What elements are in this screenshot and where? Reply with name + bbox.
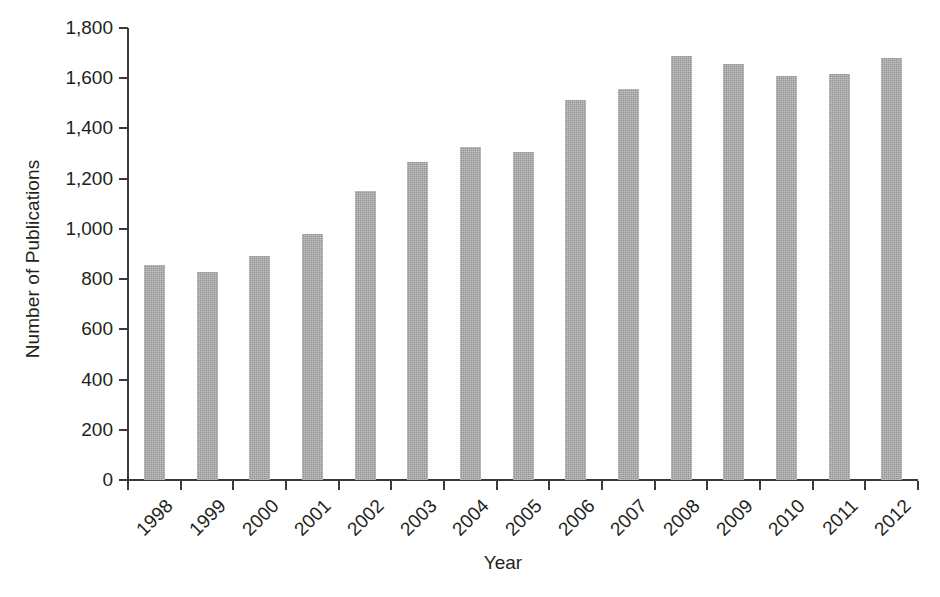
x-axis-tick <box>338 481 340 490</box>
x-axis-tick-label: 1998 <box>120 495 178 553</box>
x-axis-title: Year <box>0 552 940 574</box>
x-axis-tick <box>759 481 761 490</box>
x-axis-tick <box>180 481 182 490</box>
y-axis-tick-label: 1,600 <box>5 68 113 87</box>
bar <box>513 152 534 480</box>
x-axis-tick-label: 2003 <box>383 495 441 553</box>
bar <box>671 56 692 480</box>
bar <box>249 256 270 480</box>
bar <box>407 162 428 480</box>
x-axis-tick-label: 2006 <box>541 495 599 553</box>
x-axis-tick-label: 1999 <box>173 495 231 553</box>
x-axis-tick-label: 2007 <box>594 495 652 553</box>
x-axis-tick <box>812 481 814 490</box>
y-axis-tick-label: 200 <box>5 420 113 439</box>
bar <box>197 272 218 480</box>
y-axis-tick-label: 400 <box>5 370 113 389</box>
x-axis-tick-label: 2004 <box>436 495 494 553</box>
x-axis-tick <box>548 481 550 490</box>
x-axis-tick-label: 2010 <box>752 495 810 553</box>
y-axis-tick-label: 1,400 <box>5 118 113 137</box>
x-axis-tick-label: 2002 <box>331 495 389 553</box>
x-axis-tick <box>864 481 866 490</box>
bar <box>723 64 744 480</box>
x-axis-title-text: Year <box>484 552 522 574</box>
bar <box>302 234 323 480</box>
y-axis-tick-label: 1,000 <box>5 219 113 238</box>
bar <box>881 58 902 480</box>
y-axis-tick-label: 1,200 <box>5 169 113 188</box>
x-axis-tick-label: 2000 <box>225 495 283 553</box>
x-axis-tick-label: 2009 <box>699 495 757 553</box>
bar-chart: Number of Publications 02004006008001,00… <box>0 0 940 597</box>
x-axis-tick-label: 2008 <box>647 495 705 553</box>
bar <box>829 74 850 480</box>
bar <box>355 191 376 480</box>
x-axis-tick <box>706 481 708 490</box>
x-axis-tick <box>232 481 234 490</box>
x-axis-tick <box>285 481 287 490</box>
x-axis-tick-label: 2011 <box>805 495 863 553</box>
y-axis-tick-label: 800 <box>5 269 113 288</box>
y-axis-tick-label: 0 <box>5 470 113 489</box>
bar <box>460 147 481 480</box>
bar <box>565 100 586 480</box>
x-axis-tick-label: 2012 <box>857 495 915 553</box>
x-axis-tick-label: 2001 <box>278 495 336 553</box>
x-axis-tick <box>601 481 603 490</box>
y-axis-tick-label: 600 <box>5 319 113 338</box>
y-axis-tick-label: 1,800 <box>5 18 113 37</box>
x-axis-tick <box>654 481 656 490</box>
bar <box>776 76 797 480</box>
x-axis-tick <box>127 481 129 490</box>
x-axis-tick-label: 2005 <box>489 495 547 553</box>
bar <box>144 265 165 480</box>
x-axis-tick <box>917 481 919 490</box>
x-axis-tick <box>390 481 392 490</box>
bar <box>618 89 639 480</box>
x-axis-tick <box>443 481 445 490</box>
y-axis-tick-labels: 02004006008001,0001,2001,4001,6001,800 <box>0 0 113 597</box>
y-axis-line <box>127 28 129 481</box>
x-axis-tick <box>496 481 498 490</box>
